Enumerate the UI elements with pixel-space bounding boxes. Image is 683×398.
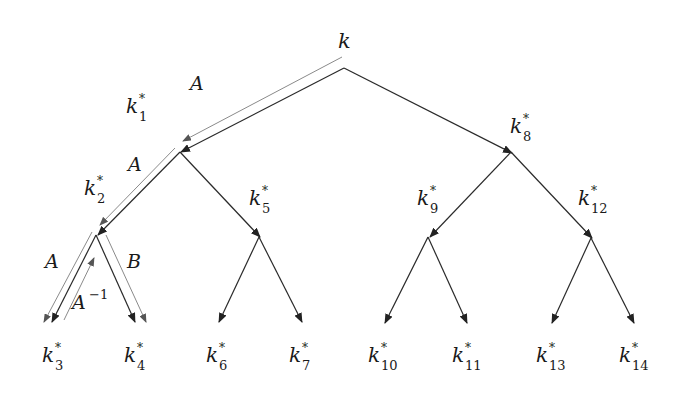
svg-text:13: 13 <box>549 358 566 373</box>
svg-text:k: k <box>42 343 54 367</box>
svg-text:2: 2 <box>97 191 105 206</box>
svg-text:*: * <box>591 184 597 198</box>
svg-text:9: 9 <box>430 201 438 216</box>
svg-text:*: * <box>465 341 471 355</box>
svg-text:k: k <box>368 343 380 367</box>
key-tree-diagram: A A A A −1 B k k * 1 k * 2 k * 3 k * 4 k <box>0 0 683 398</box>
svg-text:*: * <box>262 184 268 198</box>
svg-text:k: k <box>452 343 464 367</box>
svg-text:*: * <box>430 184 436 198</box>
path-label-b: B <box>126 250 141 272</box>
svg-text:*: * <box>219 341 225 355</box>
node-label-k: k <box>338 29 351 53</box>
svg-text:*: * <box>97 174 103 188</box>
svg-text:10: 10 <box>381 358 398 373</box>
svg-text:1: 1 <box>139 109 147 124</box>
svg-text:k: k <box>578 186 590 210</box>
svg-text:*: * <box>549 341 555 355</box>
svg-text:*: * <box>381 341 387 355</box>
svg-text:k: k <box>510 114 522 138</box>
svg-text:*: * <box>302 341 308 355</box>
svg-text:k: k <box>206 343 218 367</box>
svg-text:4: 4 <box>137 358 145 373</box>
svg-text:*: * <box>55 341 61 355</box>
svg-text:k: k <box>124 343 136 367</box>
svg-text:*: * <box>137 341 143 355</box>
svg-text:k: k <box>417 186 429 210</box>
svg-text:5: 5 <box>262 201 270 216</box>
path-label-a2: A <box>126 153 142 175</box>
svg-text:k: k <box>249 186 261 210</box>
svg-text:*: * <box>523 112 529 126</box>
svg-text:7: 7 <box>302 358 310 373</box>
svg-text:8: 8 <box>523 129 531 144</box>
svg-text:k: k <box>126 94 138 118</box>
svg-text:k: k <box>84 176 96 200</box>
svg-text:11: 11 <box>465 358 482 373</box>
svg-text:k: k <box>536 343 548 367</box>
svg-text:12: 12 <box>591 201 608 216</box>
path-label-a3: A <box>43 250 59 272</box>
svg-text:14: 14 <box>632 358 649 373</box>
svg-text:k: k <box>289 343 301 367</box>
svg-text:k: k <box>619 343 631 367</box>
svg-text:6: 6 <box>219 358 227 373</box>
svg-text:*: * <box>139 92 145 106</box>
path-label-a1: A <box>188 72 204 94</box>
path-label-ainv: A <box>70 291 86 313</box>
svg-text:3: 3 <box>55 358 63 373</box>
path-label-ainv-exponent: −1 <box>89 287 108 302</box>
svg-text:*: * <box>632 341 638 355</box>
